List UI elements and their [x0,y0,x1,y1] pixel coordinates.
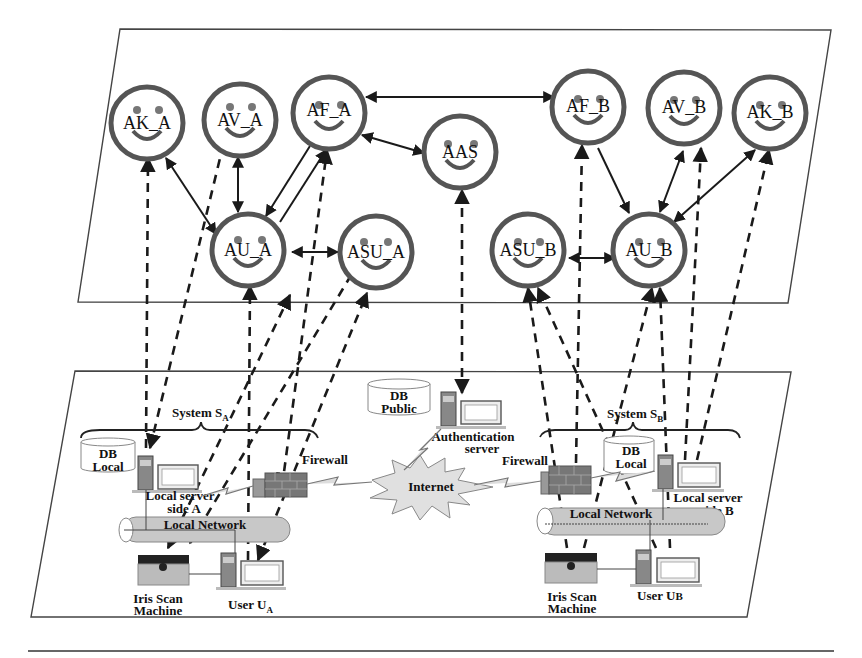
agent-label: ASU_B [499,240,556,260]
agent-af-a[interactable]: AF_A [293,77,365,149]
internet-label: Internet [408,479,454,494]
agent-asu-b[interactable]: ASU_B [492,214,564,286]
architecture-diagram: AK_A AV_A AF_A AAS AU_A ASU_A AF_B AV_B [0,0,862,658]
agent-av-b[interactable]: AV_B [648,72,720,144]
agent-af-b[interactable]: AF_B [552,71,624,143]
user-a-label: User UA [228,597,273,615]
firewall-b-label: Firewall [502,453,548,468]
agent-av-a[interactable]: AV_A [204,84,276,156]
system-b-brace [540,422,740,438]
agent-label: AV_A [217,110,263,130]
authentication-server-icon [436,392,506,429]
agent-label: AK_A [123,113,171,133]
agent-label: AF_B [566,96,610,116]
agent-label: ASU_A [347,242,405,262]
agent-aas[interactable]: AAS [424,116,496,188]
db-public-label-2: Public [381,401,417,416]
user-b-label: User UB [637,588,683,603]
iris-scan-b-icon [545,553,597,583]
agent-au-b[interactable]: AU_B [613,214,685,286]
server-b-icon [652,455,724,492]
system-a: System SA DB Local Local server side A L… [81,405,372,618]
authentication-server-label-2: server [465,441,500,456]
db-local-a-label-2: Local [92,459,123,474]
agent-label: AU_B [625,240,672,260]
firewall-a-label: Firewall [302,452,348,467]
local-network-b-label: Local Network [570,506,653,521]
user-b-computer-icon [630,550,702,587]
center-infrastructure: DB Public Authentication server Internet [368,379,515,520]
agent-label: AK_B [746,102,793,122]
agent-asu-a[interactable]: ASU_A [340,216,412,288]
firewall-b-icon [541,466,591,494]
agent-ak-b[interactable]: AK_B [734,77,806,149]
system-a-title: System SA [172,405,229,423]
agent-au-a[interactable]: AU_A [212,214,284,286]
agent-label: AF_A [306,100,351,120]
agent-label: AU_A [224,240,272,260]
agent-label: AAS [442,142,478,162]
system-a-brace [81,422,318,438]
system-b-title: System SB [607,406,663,424]
user-a-computer-icon [216,553,286,590]
server-a-label-2: side A [167,501,201,516]
iris-scan-b-label-2: Machine [548,601,597,616]
db-local-b-label-2: Local [615,456,646,471]
iris-scan-a-icon [138,555,189,585]
agent-label: AV_B [662,97,707,117]
link-lightning-a2 [307,477,372,485]
firewall-a-icon [253,473,307,497]
agent-ak-a[interactable]: AK_A [111,87,183,159]
iris-scan-a-label-2: Machine [134,603,183,618]
